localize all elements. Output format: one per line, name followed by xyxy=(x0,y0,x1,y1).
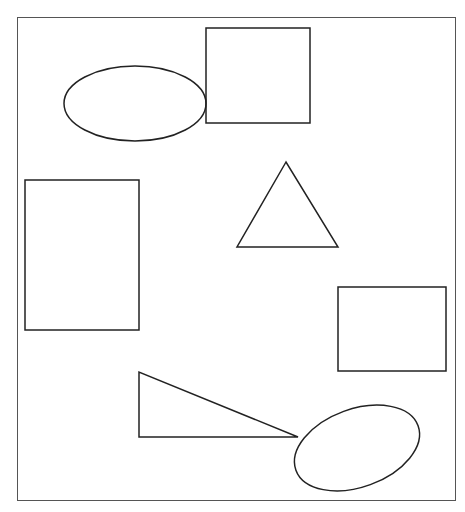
canvas-background xyxy=(0,0,465,512)
shapes-canvas xyxy=(0,0,465,512)
